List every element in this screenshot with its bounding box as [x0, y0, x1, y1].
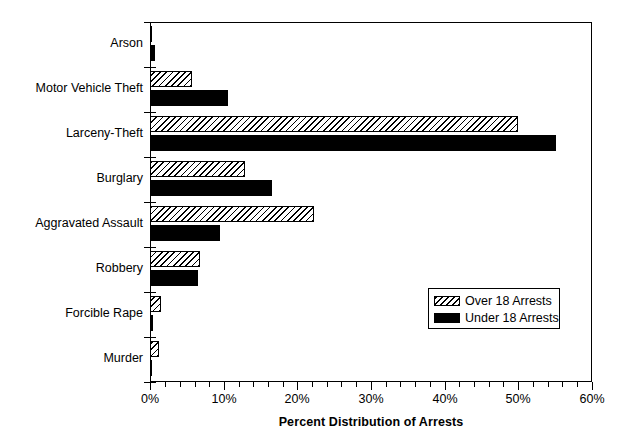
category-label: Forcible Rape	[65, 306, 143, 320]
tick-text: 30%	[358, 392, 383, 406]
axis-label-burglary: Burglary	[0, 171, 143, 185]
x-axis-minor-tick	[327, 382, 328, 387]
bar-over18-robbery	[150, 251, 200, 267]
y-axis-tick	[144, 22, 156, 23]
legend-label-over-18: Over 18 Arrests	[465, 294, 552, 308]
x-axis-tick-label-30: 30%	[346, 392, 396, 407]
legend-label-under-18: Under 18 Arrests	[465, 311, 559, 325]
x-axis-tick-label-0: 0%	[125, 392, 175, 407]
x-axis-tick-label-50: 50%	[493, 392, 543, 407]
bar-over18-motor-vehicle-theft	[150, 71, 192, 87]
x-axis-title: Percent Distribution of Arrests	[150, 415, 592, 429]
category-label: Aggravated Assault	[35, 216, 143, 230]
category-label: Murder	[103, 351, 143, 365]
x-axis-tick-label-40: 40%	[420, 392, 470, 407]
x-axis-tick-10	[224, 382, 225, 390]
x-axis-minor-tick	[195, 382, 196, 387]
category-group-aggravated-assault	[150, 206, 592, 251]
legend-item-under-18: Under 18 Arrests	[434, 310, 554, 326]
axis-label-motor-vehicle-theft: Motor Vehicle Theft	[0, 81, 143, 95]
x-axis-minor-tick	[533, 382, 534, 387]
x-axis-minor-tick	[577, 382, 578, 387]
x-axis-minor-tick	[180, 382, 181, 387]
x-axis-minor-tick	[430, 382, 431, 387]
x-axis-minor-tick	[503, 382, 504, 387]
x-axis-minor-tick	[312, 382, 313, 387]
category-group-motor-vehicle-theft	[150, 71, 592, 116]
x-axis-minor-tick	[209, 382, 210, 387]
category-label: Burglary	[96, 171, 143, 185]
x-axis-minor-tick	[239, 382, 240, 387]
y-axis-tick	[144, 337, 156, 338]
axis-label-robbery: Robbery	[0, 261, 143, 275]
x-axis-tick-30	[371, 382, 372, 390]
x-axis-minor-tick	[474, 382, 475, 387]
category-group-murder	[150, 341, 592, 386]
axis-label-aggravated-assault: Aggravated Assault	[0, 216, 143, 230]
bar-over18-murder	[150, 341, 159, 357]
x-axis-minor-tick	[400, 382, 401, 387]
tick-text: 50%	[505, 392, 530, 406]
tick-text: 40%	[432, 392, 457, 406]
y-axis-tick	[144, 112, 156, 113]
x-axis-minor-tick	[459, 382, 460, 387]
x-axis-tick-50	[518, 382, 519, 390]
y-axis-tick	[144, 247, 156, 248]
hatched-swatch-icon	[434, 296, 460, 306]
category-label: Robbery	[96, 261, 143, 275]
axis-label-forcible-rape: Forcible Rape	[0, 306, 143, 320]
axis-label-larceny-theft: Larceny-Theft	[0, 126, 143, 140]
x-axis-minor-tick	[283, 382, 284, 387]
bar-under18-robbery	[150, 270, 198, 286]
category-group-arson	[150, 26, 592, 71]
bar-under18-arson	[150, 45, 155, 61]
x-axis-tick-label-20: 20%	[272, 392, 322, 407]
bar-under18-larceny-theft	[150, 135, 556, 151]
x-axis-minor-tick	[165, 382, 166, 387]
x-axis-minor-tick	[268, 382, 269, 387]
x-axis-tick-40	[445, 382, 446, 390]
bar-over18-aggravated-assault	[150, 206, 314, 222]
x-axis-minor-tick	[548, 382, 549, 387]
legend: Over 18 Arrests Under 18 Arrests	[428, 288, 560, 329]
bar-over18-larceny-theft	[150, 116, 518, 132]
bar-under18-burglary	[150, 180, 272, 196]
bar-over18-arson	[150, 26, 152, 42]
bar-under18-motor-vehicle-theft	[150, 90, 228, 106]
bar-under18-forcible-rape	[150, 315, 153, 331]
category-label: Motor Vehicle Theft	[36, 81, 143, 95]
tick-text: 20%	[284, 392, 309, 406]
tick-text: 0%	[141, 392, 159, 406]
x-axis-tick-label-60: 60%	[567, 392, 617, 407]
x-axis-tick-20	[297, 382, 298, 390]
bar-over18-burglary	[150, 161, 245, 177]
legend-item-over-18: Over 18 Arrests	[434, 293, 554, 309]
y-axis-tick	[144, 202, 156, 203]
category-group-larceny-theft	[150, 116, 592, 161]
category-label: Arson	[110, 36, 143, 50]
x-axis-tick-0	[150, 382, 151, 390]
bar-under18-murder	[150, 360, 152, 376]
solid-black-swatch-icon	[434, 313, 460, 323]
bar-chart: Arson Motor Vehicle Theft Larceny-Theft …	[0, 0, 636, 444]
x-axis-minor-tick	[562, 382, 563, 387]
x-axis-minor-tick	[341, 382, 342, 387]
tick-text: 10%	[211, 392, 236, 406]
y-axis-tick	[144, 67, 156, 68]
category-label: Larceny-Theft	[66, 126, 143, 140]
bar-under18-aggravated-assault	[150, 225, 220, 241]
x-axis-minor-tick	[253, 382, 254, 387]
y-axis-tick	[144, 292, 156, 293]
tick-text: 60%	[579, 392, 604, 406]
x-axis-minor-tick	[356, 382, 357, 387]
x-axis-tick-label-10: 10%	[199, 392, 249, 407]
x-axis-minor-tick	[386, 382, 387, 387]
x-axis-minor-tick	[489, 382, 490, 387]
x-axis-tick-60	[592, 382, 593, 390]
y-axis-tick	[144, 157, 156, 158]
x-axis-minor-tick	[415, 382, 416, 387]
category-group-burglary	[150, 161, 592, 206]
bar-over18-forcible-rape	[150, 296, 161, 312]
axis-label-arson: Arson	[0, 36, 143, 50]
axis-label-murder: Murder	[0, 351, 143, 365]
